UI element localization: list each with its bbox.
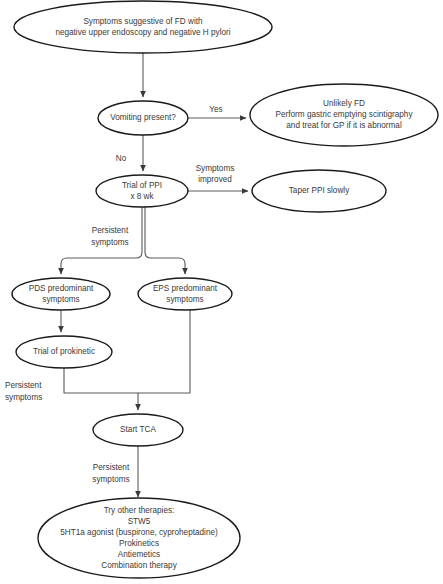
edge-label-label-persistent-3b: symptoms [92,475,129,484]
node-label-taper-ppi-line-0: Taper PPI slowly [289,186,350,195]
edge-label-label-persistent-2b: symptoms [5,393,42,402]
node-vomiting[interactable]: Vomiting present? [98,101,188,135]
edge-prokinetic-to-tca [64,368,138,410]
edge-label-label-persistent-1a: Persistent [92,226,129,235]
node-label-other-therapies-line-3: Prokinetics [119,539,159,548]
node-taper-ppi[interactable]: Taper PPI slowly [252,170,386,212]
node-label-start-line-1: negative upper endoscopy and negative H … [55,28,230,37]
node-start[interactable]: Symptoms suggestive of FD withnegative u… [14,1,272,53]
node-label-unlikely-fd-line-0: Unlikely FD [323,99,365,108]
node-label-trial-ppi-line-1: x 8 wk [130,192,154,201]
flowchart-svg: Symptoms suggestive of FD withnegative u… [0,0,443,584]
node-label-unlikely-fd-line-2: and treat for GP if it is abnormal [286,121,402,130]
node-unlikely-fd[interactable]: Unlikely FDPerform gastric emptying scin… [250,84,438,146]
edge-label-label-persistent-2a: Persistent [5,381,42,390]
node-label-other-therapies-line-4: Antiemetics [118,550,160,559]
node-label-other-therapies-line-0: Try other therapies: [104,506,175,515]
node-label-eps-line-1: symptoms [166,295,203,304]
node-pds[interactable]: PDS predominantsymptoms [12,278,110,310]
nodes-layer: Symptoms suggestive of FD withnegative u… [12,1,438,578]
edge-label-label-persistent-1b: symptoms [91,238,128,247]
flowchart-canvas: Symptoms suggestive of FD withnegative u… [0,0,443,584]
edge-label-label-no: No [116,154,127,163]
node-label-vomiting-line-0: Vomiting present? [110,113,176,122]
node-label-prokinetic-line-0: Trial of prokinetic [33,347,95,356]
node-label-pds-line-1: symptoms [42,295,79,304]
node-label-pds-line-0: PDS predominant [29,284,94,293]
edge-eps-to-tca [138,310,190,393]
edge-label-label-symptoms-improved-2: improved [198,175,232,184]
node-label-trial-ppi-line-0: Trial of PPI [122,181,162,190]
node-start-tca[interactable]: Start TCA [93,414,183,446]
node-label-other-therapies-line-1: STW5 [128,517,151,526]
node-label-start-tca-line-0: Start TCA [120,425,156,434]
edge-trial-to-eps [145,207,185,274]
edge-label-label-symptoms-improved-1: Symptoms [196,164,235,173]
node-trial-ppi[interactable]: Trial of PPIx 8 wk [96,175,188,207]
node-label-start-line-0: Symptoms suggestive of FD with [83,17,203,26]
node-label-unlikely-fd-line-1: Perform gastric emptying scintigraphy [276,110,414,119]
edge-label-label-persistent-3a: Persistent [93,463,130,472]
node-eps[interactable]: EPS predominantsymptoms [138,278,232,310]
edge-label-label-yes: Yes [209,105,222,114]
node-label-other-therapies-line-2: 5HT1a agonist (buspirone, cyproheptadine… [60,528,218,537]
node-other-therapies[interactable]: Try other therapies:STW55HT1a agonist (b… [38,498,240,578]
node-label-other-therapies-line-5: Combination therapy [101,561,177,570]
node-label-eps-line-0: EPS predominant [153,284,218,293]
node-prokinetic[interactable]: Trial of prokinetic [16,336,112,368]
